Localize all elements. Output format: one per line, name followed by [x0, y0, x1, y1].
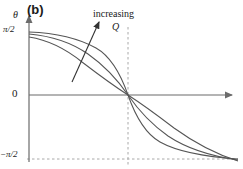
- panel-label: (b): [27, 3, 44, 16]
- annotation-q-symbol: Q: [112, 22, 119, 32]
- curve-q-high: [29, 37, 238, 161]
- y-tick-label-pi-half: π/2: [3, 25, 15, 34]
- figure-panel-b: (b) θ π/2 0 −π/2 increasing Q: [0, 0, 243, 169]
- y-tick-label-zero: 0: [12, 88, 18, 99]
- increasing-q-arrow: [72, 22, 99, 82]
- curve-q-medium: [29, 34, 238, 160]
- plot-canvas: [0, 0, 243, 169]
- y-axis-label: θ: [13, 10, 18, 20]
- y-tick-label-negative-pi-half: −π/2: [0, 150, 18, 159]
- annotation-increasing-text: increasing: [93, 9, 134, 19]
